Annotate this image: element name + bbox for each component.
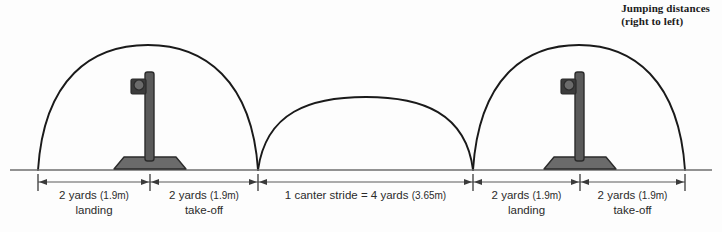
segment-landing-right-metric: (1.9m) bbox=[533, 190, 562, 201]
arrowhead-right-4 bbox=[581, 179, 589, 185]
arrowhead-left-4 bbox=[571, 179, 579, 185]
segment-landing-right-distance: 2 yards bbox=[492, 189, 530, 201]
segment-landing-left-metric: (1.9m) bbox=[100, 190, 129, 201]
caption-line-2: (right to left) bbox=[621, 15, 683, 27]
segment-takeoff-right-distance: 2 yards bbox=[598, 189, 636, 201]
caption-line-1: Jumping distances bbox=[621, 2, 710, 14]
arrowhead-left-3 bbox=[464, 179, 472, 185]
caption-title: Jumping distances (right to left) bbox=[621, 2, 710, 28]
segment-takeoff-right-phase: take-off bbox=[580, 203, 685, 218]
segment-canter-stride-label: 1 canter stride = 4 yards (3.65m) bbox=[258, 188, 473, 203]
arrowhead-right-2 bbox=[259, 179, 267, 185]
arrowhead-right-3 bbox=[474, 179, 482, 185]
segment-takeoff-left-metric: (1.9m) bbox=[210, 190, 239, 201]
segment-takeoff-right-label: 2 yards (1.9m) take-off bbox=[580, 188, 685, 218]
fence-right bbox=[544, 72, 616, 169]
segment-canter-stride-metric: (3.65m) bbox=[412, 190, 446, 201]
segment-landing-left-distance: 2 yards bbox=[59, 189, 97, 201]
fence-left-cup-circle bbox=[134, 80, 144, 90]
segment-takeoff-left-distance: 2 yards bbox=[169, 189, 207, 201]
segment-landing-right-label: 2 yards (1.9m) landing bbox=[473, 188, 580, 218]
jumping-distances-diagram: Jumping distances (right to left) 2 yard… bbox=[0, 0, 722, 232]
segment-takeoff-right-metric: (1.9m) bbox=[639, 190, 668, 201]
segment-takeoff-left-label: 2 yards (1.9m) take-off bbox=[150, 188, 258, 218]
arrowhead-right-0 bbox=[39, 179, 47, 185]
arrowhead-right-1 bbox=[151, 179, 159, 185]
arrowhead-left-5 bbox=[676, 179, 684, 185]
canter-stride-arc bbox=[258, 97, 473, 170]
segment-takeoff-left-phase: take-off bbox=[150, 203, 258, 218]
arrowhead-left-2 bbox=[249, 179, 257, 185]
fence-left bbox=[114, 72, 186, 169]
arrowhead-left-1 bbox=[141, 179, 149, 185]
segment-landing-right-phase: landing bbox=[473, 203, 580, 218]
segment-landing-left-label: 2 yards (1.9m) landing bbox=[38, 188, 150, 218]
trajectory-arcs bbox=[38, 45, 685, 170]
segment-canter-stride-distance: 1 canter stride = 4 yards bbox=[285, 189, 409, 201]
fence-right-cup-circle bbox=[564, 80, 574, 90]
segment-landing-left-phase: landing bbox=[38, 203, 150, 218]
